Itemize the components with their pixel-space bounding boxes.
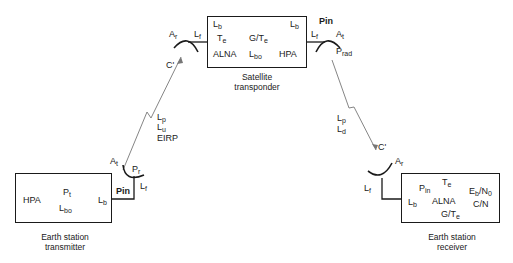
earth-rx-antenna-icon (368, 163, 392, 175)
downlink-c-prime: C' (378, 142, 386, 152)
etx-pin: Pin (116, 186, 130, 196)
erx-alna: ALNA (432, 196, 456, 206)
downlink-lp: Lp (337, 113, 346, 123)
sat-ar: Ar (169, 29, 177, 39)
etx-pr: Pr (132, 164, 140, 174)
etx-lbo: Lbo (59, 203, 72, 213)
erx-te: Te (442, 177, 451, 187)
uplink-path (123, 57, 181, 170)
sat-gte: G/Te (249, 33, 268, 43)
uplink-c-prime: C' (166, 60, 174, 70)
etx-lf: Lf (140, 181, 147, 191)
erx-ebn0: Eb/N0 (469, 186, 492, 196)
erx-lb: Lb (408, 197, 417, 207)
erx-cn: C/N (473, 199, 489, 209)
downlink-path (332, 60, 376, 150)
uplink-lu: Lu (157, 122, 166, 132)
sat-lbo: Lbo (249, 49, 262, 59)
sat-rx-lf: Lf (194, 29, 201, 39)
earth-rx-caption: Earth station receiver (415, 232, 489, 252)
sat-at: At (336, 29, 344, 39)
etx-at: At (110, 156, 118, 166)
sat-te: Te (217, 33, 226, 43)
sat-lb-right: Lb (290, 19, 299, 29)
erx-lf: Lf (364, 183, 371, 193)
sat-alna: ALNA (213, 49, 237, 59)
etx-pt: Pt (63, 187, 71, 197)
satellite-caption: Satellite transponder (222, 72, 292, 92)
sat-hpa: HPA (279, 49, 297, 59)
erx-ar: Ar (395, 156, 403, 166)
etx-lb: Lb (98, 195, 107, 205)
sat-tx-lf: Lf (311, 29, 318, 39)
erx-gte: G/Te (441, 209, 460, 219)
downlink-ld: Ld (337, 124, 346, 134)
sat-prad: Prad (336, 46, 352, 56)
earth-tx-caption: Earth station transmitter (28, 232, 102, 252)
erx-pin: Pin (419, 183, 430, 193)
sat-pin: Pin (319, 16, 333, 26)
uplink-lp: Lp (157, 112, 166, 122)
etx-hpa: HPA (23, 195, 41, 205)
uplink-eirp: EIRP (157, 133, 178, 143)
sat-lb-left: Lb (213, 19, 222, 29)
